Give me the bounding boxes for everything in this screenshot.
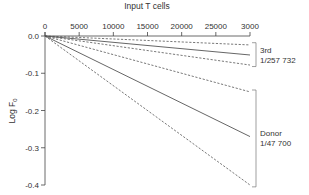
series-group xyxy=(45,36,250,185)
series-line-5 xyxy=(45,36,250,185)
annotation-donor-line-1: 1/47 700 xyxy=(260,139,292,148)
x-axis-title: Input T cells xyxy=(124,1,170,11)
y-axis-title: Log F0 xyxy=(7,98,18,124)
annotation-3rd-line-1: 1/257 732 xyxy=(260,56,296,65)
series-line-2 xyxy=(45,36,250,65)
series-line-1 xyxy=(45,36,250,55)
x-tick-label: 25000 xyxy=(205,22,228,31)
bracket-3rd xyxy=(252,43,256,67)
annotation-3rd-line-0: 3rd xyxy=(260,46,272,55)
y-tick-label: -0.3 xyxy=(25,144,39,153)
x-tick-label: 15000 xyxy=(136,22,159,31)
y-tick-label: -0.1 xyxy=(25,69,39,78)
annotations-group: 3rd1/257 732Donor1/47 700 xyxy=(252,43,296,187)
annotation-donor-line-0: Donor xyxy=(260,129,282,138)
x-axis-ticks: 05000100001500020000250003000 xyxy=(43,22,260,36)
x-tick-label: 0 xyxy=(43,22,48,31)
y-tick-label: -0.4 xyxy=(25,181,39,190)
x-tick-label: 3000 xyxy=(241,22,259,31)
y-tick-label: 0.0 xyxy=(28,32,40,41)
x-tick-label: 10000 xyxy=(102,22,125,31)
y-tick-label: -0.2 xyxy=(25,107,39,116)
x-tick-label: 5000 xyxy=(70,22,88,31)
x-tick-label: 20000 xyxy=(171,22,194,31)
bracket-donor xyxy=(252,90,256,187)
series-line-3 xyxy=(45,36,250,92)
y-axis-ticks: 0.0-0.1-0.2-0.3-0.4 xyxy=(25,32,45,190)
series-line-4 xyxy=(45,36,250,137)
chart: Input T cells 05000100001500020000250003… xyxy=(0,0,309,195)
